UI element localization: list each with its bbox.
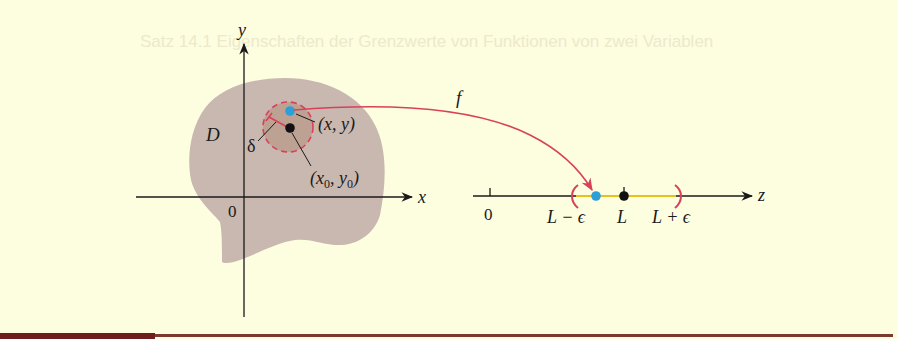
bottom-rule-thin	[155, 334, 893, 337]
z-origin-label: 0	[484, 205, 493, 224]
region-label: D	[205, 124, 220, 145]
image-point	[591, 191, 601, 201]
point-xy-label: (x, y)	[318, 114, 355, 135]
bottom-rule-thick	[0, 333, 155, 339]
limit-label: L	[616, 207, 627, 227]
delta-label: δ	[247, 136, 255, 156]
lower-bound-label: L − ϵ	[546, 207, 586, 227]
bleed-through-text: Satz 14.1 Eigenschaften der Grenzwerte v…	[140, 32, 713, 51]
x-axis-label: x	[417, 187, 426, 207]
upper-bound-label: L + ϵ	[651, 207, 691, 227]
point-xy	[285, 106, 295, 116]
z-axis-label: z	[757, 185, 765, 205]
point-x0y0	[285, 123, 295, 133]
limit-point	[619, 191, 629, 201]
y-axis-label: y	[236, 20, 246, 40]
mapping-label-f: f	[456, 87, 464, 108]
domain-origin-label: 0	[228, 202, 237, 221]
limit-definition-diagram: Satz 14.1 Eigenschaften der Grenzwerte v…	[0, 0, 898, 339]
